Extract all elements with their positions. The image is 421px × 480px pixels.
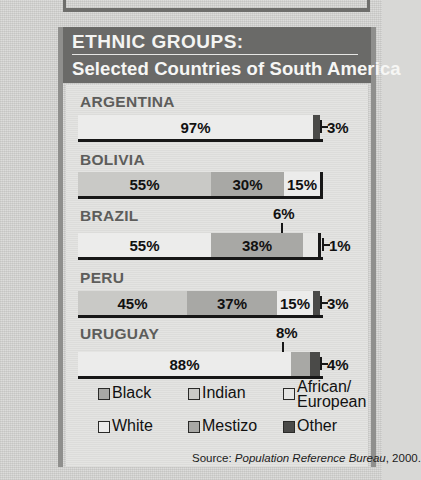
- bar-segment-white: 88%: [78, 352, 291, 376]
- source-publication: Population Reference Bureau: [235, 452, 386, 464]
- country-label: URUGUAY: [80, 325, 159, 343]
- outside-value-label: 8%: [276, 324, 298, 341]
- segment-value: 37%: [187, 295, 277, 312]
- source-suffix: , 2000.: [386, 452, 421, 464]
- ethnic-groups-figure: ETHNIC GROUPS: Selected Countries of Sou…: [58, 27, 376, 480]
- legend-label: Mestizo: [202, 418, 257, 434]
- figure-right-rule: [371, 27, 376, 467]
- leader-tick: [320, 296, 322, 309]
- legend-label: Black: [112, 385, 151, 401]
- bar-segment-black: 38%: [211, 233, 303, 257]
- bar-segment-other: [313, 115, 320, 139]
- chart-legend: Black Indian African/ European: [98, 385, 366, 445]
- title-rule: [72, 54, 358, 55]
- legend-item-white: White: [98, 418, 153, 434]
- leader-tick: [320, 120, 322, 133]
- segment-value: 15%: [284, 176, 320, 193]
- bar-baseline: [78, 196, 323, 199]
- stacked-bar: 97%: [78, 115, 320, 139]
- segment-value: 55%: [78, 176, 211, 193]
- stacked-bar: 45% 37% 15%: [78, 291, 320, 315]
- legend-item-mestizo: Mestizo: [188, 418, 257, 434]
- bar-segment-other: [313, 291, 320, 315]
- segment-value: 55%: [78, 237, 211, 254]
- bar-segment-african-european: [303, 233, 318, 257]
- figure-subtitle: Selected Countries of South America: [72, 57, 371, 80]
- leader-tick: [320, 357, 322, 370]
- legend-label: Other: [297, 418, 337, 434]
- previous-box-bottom-edge: [63, 0, 370, 12]
- segment-value: 88%: [78, 356, 291, 373]
- bar-segment-mestizo: [291, 352, 310, 376]
- leader-tick: [322, 238, 324, 251]
- stacked-bar: 88%: [78, 352, 320, 376]
- legend-label: Indian: [202, 385, 246, 401]
- source-prefix: Source:: [192, 452, 235, 464]
- outside-value-label: 4%: [327, 356, 349, 373]
- stacked-bar: 55% 30% 15%: [78, 172, 320, 196]
- segment-value: 97%: [78, 119, 313, 136]
- bar-baseline: [78, 139, 323, 142]
- bar-segment-other: [310, 352, 320, 376]
- country-label: PERU: [80, 269, 124, 287]
- indian-swatch-icon: [188, 388, 200, 400]
- figure-header: ETHNIC GROUPS: Selected Countries of Sou…: [63, 27, 371, 83]
- bar-baseline: [78, 315, 323, 318]
- legend-item-african-european: African/ European: [283, 379, 366, 409]
- legend-item-other: Other: [283, 418, 337, 434]
- country-label: BOLIVIA: [80, 151, 145, 169]
- legend-label-line2: European: [297, 394, 366, 409]
- outside-value-label: 6%: [273, 205, 295, 222]
- bar-segment-mestizo: 30%: [211, 172, 284, 196]
- other-swatch-icon: [283, 421, 295, 433]
- bar-segment-white: 15%: [284, 172, 320, 196]
- bar-end-cap: [320, 172, 323, 198]
- black-swatch-icon: [98, 388, 110, 400]
- figure-left-rule: [58, 27, 63, 467]
- segment-value: 38%: [211, 237, 303, 254]
- segment-value: 30%: [211, 176, 284, 193]
- legend-row: White Mestizo Other: [98, 418, 366, 445]
- white-swatch-icon: [98, 421, 110, 433]
- legend-item-indian: Indian: [188, 385, 246, 401]
- outside-value-label: 1%: [329, 237, 351, 254]
- country-label: BRAZIL: [80, 207, 139, 225]
- stacked-bar: 55% 38%: [78, 233, 320, 257]
- country-label: ARGENTINA: [80, 93, 175, 111]
- bar-segment-white: 15%: [277, 291, 313, 315]
- legend-row: Black Indian African/ European: [98, 385, 366, 412]
- segment-value: 15%: [277, 295, 313, 312]
- bar-segment-mestizo: 37%: [187, 291, 277, 315]
- legend-item-black: Black: [98, 385, 151, 401]
- source-note: Source: Population Reference Bureau, 200…: [192, 452, 421, 464]
- outside-value-label: 3%: [327, 119, 349, 136]
- figure-title: ETHNIC GROUPS:: [72, 31, 371, 53]
- african-european-swatch-icon: [283, 388, 295, 400]
- bar-segment-white: 55%: [78, 233, 211, 257]
- segment-value: 45%: [78, 295, 187, 312]
- bar-end-cap: [318, 233, 321, 259]
- legend-label-group: African/ European: [297, 379, 366, 409]
- bar-segment-white: 97%: [78, 115, 313, 139]
- bar-baseline: [78, 257, 323, 260]
- bar-segment-indian: 55%: [78, 172, 211, 196]
- bar-segment-indian: 45%: [78, 291, 187, 315]
- outside-value-label: 3%: [327, 295, 349, 312]
- mestizo-swatch-icon: [188, 421, 200, 433]
- chart-plate: ARGENTINA 97% 3% BOLIVIA 55%: [66, 85, 368, 467]
- legend-label: White: [112, 418, 153, 434]
- legend-label-line1: African/: [297, 379, 366, 394]
